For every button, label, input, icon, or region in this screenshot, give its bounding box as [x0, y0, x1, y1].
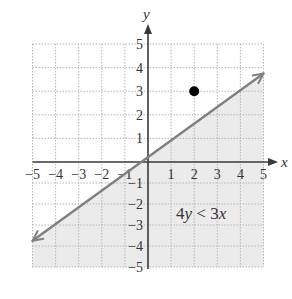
y-axis-label: y [141, 6, 150, 22]
x-tick-label: −5 [25, 167, 40, 182]
y-tick-label: 5 [136, 37, 143, 52]
y-tick-label: −4 [128, 239, 143, 254]
inequality-graph: −5−4−3−2−112345−5−4−3−2−112345 y x 4y < … [0, 0, 292, 299]
x-tick-label: −2 [94, 167, 109, 182]
x-tick-label: −3 [71, 167, 86, 182]
y-axis-arrow-icon [144, 24, 152, 34]
x-tick-label: 5 [260, 167, 267, 182]
test-point [189, 86, 199, 96]
y-tick-label: 2 [136, 108, 143, 123]
x-tick-label: 2 [191, 167, 198, 182]
y-tick-label: −3 [128, 218, 143, 233]
y-tick-label: −5 [128, 260, 143, 275]
x-tick-label: 1 [168, 167, 175, 182]
x-tick-label: −4 [48, 167, 63, 182]
y-tick-label: −1 [128, 176, 143, 191]
y-tick-label: 4 [136, 61, 143, 76]
x-tick-label: 3 [214, 167, 221, 182]
y-tick-label: 3 [136, 84, 143, 99]
x-tick-label: 4 [237, 167, 244, 182]
y-tick-label: −2 [128, 197, 143, 212]
inequality-annotation: 4y < 3x [176, 204, 227, 223]
y-tick-label: 1 [136, 131, 143, 146]
x-axis-arrow-icon [268, 158, 278, 166]
x-axis-label: x [280, 154, 288, 170]
